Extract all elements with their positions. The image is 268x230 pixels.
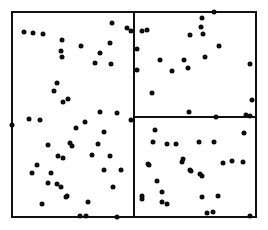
data-point [55, 81, 60, 86]
data-point [165, 202, 170, 207]
data-point [110, 21, 115, 26]
data-point [35, 163, 40, 168]
data-point [212, 140, 217, 145]
data-point [10, 123, 15, 128]
data-point [211, 210, 216, 215]
data-point [241, 160, 246, 165]
data-point [38, 118, 43, 123]
data-point [61, 156, 66, 161]
data-point [230, 159, 235, 164]
plot-surface [0, 0, 268, 230]
data-point [22, 30, 27, 35]
data-point [250, 98, 255, 103]
data-point [129, 29, 134, 34]
data-point [150, 91, 155, 96]
data-point [98, 51, 103, 56]
data-point [129, 118, 134, 123]
data-point [59, 49, 64, 54]
data-point [244, 113, 249, 118]
data-point [165, 142, 170, 147]
data-point [170, 69, 175, 74]
data-point [189, 169, 194, 174]
data-point [74, 126, 79, 131]
data-point [49, 171, 54, 176]
data-point [200, 195, 205, 200]
data-point [115, 111, 120, 116]
data-point [46, 143, 51, 148]
data-point [248, 214, 253, 219]
data-point [59, 185, 64, 190]
data-point [83, 120, 88, 125]
data-point [212, 10, 217, 15]
data-point [108, 41, 113, 46]
data-point [216, 194, 221, 199]
data-point [66, 97, 71, 102]
data-point [151, 140, 156, 145]
data-point [78, 214, 83, 219]
data-point [102, 168, 107, 173]
data-point [221, 161, 226, 166]
data-point [60, 55, 65, 60]
data-point [115, 215, 120, 220]
data-point [201, 32, 206, 37]
data-point [46, 181, 51, 186]
scatter-partition-figure [0, 0, 268, 230]
data-point [214, 115, 219, 120]
data-point [60, 38, 65, 43]
data-point [111, 185, 116, 190]
horizontal-partition-line [133, 116, 257, 118]
data-point [160, 190, 165, 195]
data-point [40, 202, 45, 207]
data-point [52, 89, 57, 94]
data-point [90, 153, 95, 158]
vertical-partition-line [133, 11, 135, 218]
data-point [155, 179, 160, 184]
data-point [186, 66, 191, 71]
data-point [79, 44, 84, 49]
data-point [98, 110, 103, 115]
data-point [84, 214, 89, 219]
data-point [135, 47, 140, 52]
data-point [203, 55, 208, 60]
data-point [174, 142, 179, 147]
data-point [61, 100, 66, 105]
data-point [145, 28, 150, 33]
data-point [109, 62, 114, 67]
data-point [147, 163, 152, 168]
data-point [158, 58, 163, 63]
data-point [64, 195, 69, 200]
data-point [199, 25, 204, 30]
data-point [248, 62, 253, 67]
data-point [96, 142, 101, 147]
data-point [140, 194, 145, 199]
data-point [30, 171, 35, 176]
data-point [242, 131, 247, 136]
data-point [200, 16, 205, 21]
data-point [180, 160, 185, 165]
data-point [153, 128, 158, 133]
data-point [182, 58, 187, 63]
data-point [205, 211, 210, 216]
data-point [93, 61, 98, 66]
data-point [27, 117, 32, 122]
data-point [197, 140, 202, 145]
data-point [86, 200, 91, 205]
data-point [217, 44, 222, 49]
data-point [119, 168, 124, 173]
data-point [188, 33, 193, 38]
data-point [108, 154, 113, 159]
data-point [31, 31, 36, 36]
data-point [70, 144, 75, 149]
data-point [198, 172, 203, 177]
data-point [41, 32, 46, 37]
data-point [102, 130, 107, 135]
data-point [135, 68, 140, 73]
data-point [187, 110, 192, 115]
